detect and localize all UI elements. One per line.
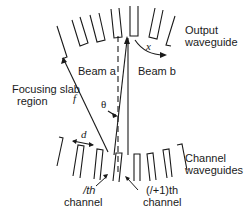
ith-channel-label: /th channel [64,184,103,208]
displacement-symbol: x [146,40,151,52]
i1th-channel-pointer [128,179,138,190]
channel-waveguides [57,137,187,182]
pitch-symbol: d [81,128,87,140]
output-waveguides [57,6,175,59]
output-waveguide-label: Output waveguide [185,24,238,48]
angle-symbol: θ [101,98,106,110]
theta-arrowhead [112,113,118,118]
i1th-channel-label: (/+1)th channel [143,184,182,208]
pitch-arrowhead-left [72,139,77,144]
beam-arrowhead [124,36,130,44]
beam-b-label: Beam b [138,65,176,77]
beam-a-label: Beam a [78,65,116,77]
ith-channel-arrowhead [103,174,108,179]
focal-length-symbol: f [73,92,76,104]
pitch-arrowhead-right [89,142,94,147]
beam-a-tilted-line [114,40,127,155]
channel-waveguides-label: Channel waveguides [185,152,243,176]
focusing-slab-label: Focusing slab region [12,83,80,107]
x-arrowhead [160,52,167,58]
